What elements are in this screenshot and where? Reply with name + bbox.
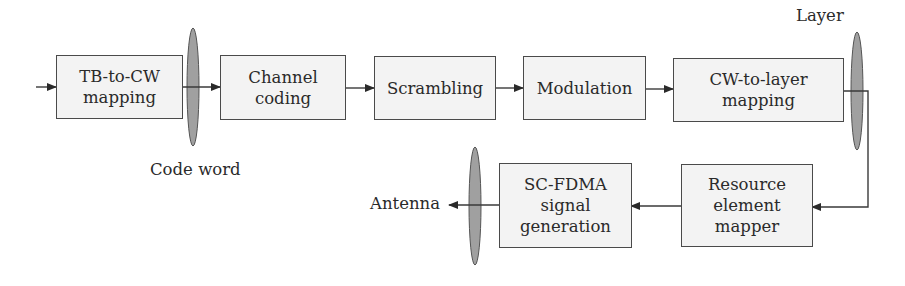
- block-channel-coding: Channel coding: [220, 55, 346, 120]
- label-antenna: Antenna: [370, 194, 440, 213]
- block-modulation: Modulation: [523, 56, 646, 120]
- antenna-ellipse-icon: [469, 147, 481, 265]
- label-layer: Layer: [796, 6, 844, 25]
- block-tb-to-cw: TB-to-CW mapping: [56, 55, 183, 119]
- block-resource-element-mapper: Resource element mapper: [681, 164, 813, 247]
- block-cw-to-layer: CW-to-layer mapping: [673, 58, 844, 122]
- label-code-word: Code word: [150, 160, 241, 179]
- block-scrambling: Scrambling: [374, 56, 496, 120]
- block-sc-fdma: SC-FDMA signal generation: [499, 163, 632, 248]
